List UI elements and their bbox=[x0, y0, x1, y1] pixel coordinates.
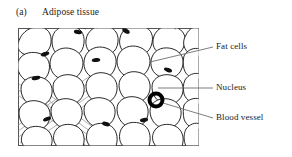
label-nucleus: Nucleus bbox=[216, 82, 246, 93]
fat-cell bbox=[87, 123, 118, 146]
adipose-tissue-drawing bbox=[0, 0, 292, 157]
fat-cell bbox=[150, 99, 181, 128]
tissue-field bbox=[14, 24, 200, 150]
label-fat-cells: Fat cells bbox=[216, 41, 247, 52]
fat-cell bbox=[51, 99, 82, 128]
adipose-tissue-figure: (a)Adipose tissue bbox=[0, 0, 292, 157]
label-blood-vessel: Blood vessel bbox=[216, 112, 263, 123]
fat-cell bbox=[19, 101, 50, 130]
fat-cell bbox=[84, 98, 115, 127]
fat-cell bbox=[120, 122, 151, 146]
fat-cell bbox=[151, 48, 183, 78]
fat-cell-edge bbox=[22, 25, 46, 28]
